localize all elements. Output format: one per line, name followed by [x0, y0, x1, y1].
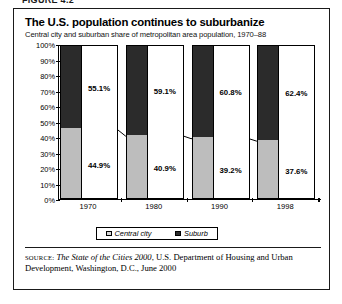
value-label-suburb: 55.1%	[88, 85, 110, 93]
y-axis-label-column: 0%10%20%30%40%50%60%70%80%90%100%	[25, 45, 55, 200]
legend-swatch-suburb-icon	[175, 231, 181, 237]
bar-group: 60.8%39.2%	[192, 45, 250, 199]
x-axis-tick-mark	[319, 198, 320, 202]
stacked-bar	[60, 45, 82, 199]
bar-group: 62.4%37.6%	[257, 45, 315, 199]
value-label-box: 60.8%39.2%	[214, 45, 250, 199]
y-axis-tick-mark	[56, 138, 60, 139]
y-axis-tick-label: 20%	[25, 166, 55, 173]
x-axis-label-row: 1970198019901998	[58, 202, 321, 214]
x-axis-tick-label: 1998	[277, 202, 294, 211]
x-axis-tick-label: 1990	[211, 202, 228, 211]
bar-group: 55.1%44.9%	[60, 45, 118, 199]
bar-segment-suburb	[193, 46, 213, 140]
legend-item-central-city: Central city	[106, 230, 151, 238]
bar-segment-suburb	[258, 46, 278, 143]
value-label-box: 59.1%40.9%	[148, 45, 184, 199]
figure-border-box: The U.S. population continues to suburba…	[13, 8, 330, 290]
y-axis-tick-mark	[56, 45, 60, 46]
value-label-central-city: 37.6%	[285, 168, 307, 176]
legend-label-suburb: Suburb	[184, 230, 208, 238]
plot-wrapper: 0%10%20%30%40%50%60%70%80%90%100% 55.1%4…	[25, 45, 321, 221]
y-axis-tick-mark	[56, 107, 60, 108]
y-axis-tick-mark	[56, 61, 60, 62]
value-label-central-city: 39.2%	[220, 167, 242, 175]
y-axis-tick-mark	[56, 154, 60, 155]
plot-area: 55.1%44.9%59.1%40.9%60.8%39.2%62.4%37.6%	[58, 45, 321, 200]
bar-segment-central-city	[258, 140, 278, 198]
figure-number-label: FIGURE 4.2	[22, 0, 74, 3]
y-axis-tick-mark	[56, 92, 60, 93]
legend-item-suburb: Suburb	[175, 230, 207, 238]
y-axis-tick-label: 50%	[25, 119, 55, 126]
value-label-suburb: 59.1%	[154, 88, 176, 96]
chart-title: The U.S. population continues to suburba…	[25, 16, 321, 29]
source-note: source: The State of the Cities 2000, U.…	[25, 252, 321, 275]
source-publication: The State of the Cities 2000	[56, 252, 151, 262]
chart-subtitle: Central city and suburban share of metro…	[25, 30, 321, 40]
legend-swatch-central-city-icon	[106, 231, 112, 237]
bar-segment-suburb	[127, 46, 147, 138]
y-axis-tick-mark	[56, 76, 60, 77]
y-axis-tick-mark	[56, 169, 60, 170]
x-axis-tick-mark	[187, 198, 188, 202]
source-divider	[25, 247, 321, 248]
bar-segment-central-city	[193, 137, 213, 198]
bar-group: 59.1%40.9%	[126, 45, 184, 199]
x-axis-tick-mark	[252, 198, 253, 202]
figure-page: FIGURE 4.2 The U.S. population continues…	[0, 0, 342, 304]
value-label-suburb: 62.4%	[285, 90, 307, 98]
y-axis-tick-mark	[56, 123, 60, 124]
value-label-box: 62.4%37.6%	[279, 45, 315, 199]
y-axis-tick-label: 30%	[25, 150, 55, 157]
bar-segment-central-city	[127, 135, 147, 198]
y-axis-tick-mark	[56, 200, 60, 201]
y-axis-tick-label: 80%	[25, 73, 55, 80]
legend-label-central-city: Central city	[115, 230, 152, 238]
value-label-central-city: 40.9%	[154, 165, 176, 173]
y-axis-tick-label: 60%	[25, 104, 55, 111]
stacked-bar	[192, 45, 214, 199]
y-axis-tick-label: 70%	[25, 88, 55, 95]
y-axis-tick-label: 10%	[25, 181, 55, 188]
y-axis-tick-mark	[56, 185, 60, 186]
x-axis-tick-label: 1980	[145, 202, 162, 211]
value-label-central-city: 44.9%	[88, 162, 110, 170]
y-axis-tick-label: 40%	[25, 135, 55, 142]
y-axis-tick-label: 90%	[25, 57, 55, 64]
y-axis-tick-label: 0%	[25, 197, 55, 204]
stacked-bar	[126, 45, 148, 199]
value-label-suburb: 60.8%	[220, 89, 242, 97]
stacked-bar	[257, 45, 279, 199]
value-label-box: 55.1%44.9%	[82, 45, 118, 199]
x-axis-tick-mark	[121, 198, 122, 202]
bar-segment-suburb	[61, 46, 81, 131]
x-axis-tick-label: 1970	[80, 202, 97, 211]
source-kicker: source:	[25, 254, 54, 261]
bar-segment-central-city	[61, 128, 81, 198]
title-block: The U.S. population continues to suburba…	[25, 16, 321, 40]
y-axis-tick-label: 100%	[25, 42, 55, 49]
chart-legend: Central city Suburb	[96, 227, 218, 240]
